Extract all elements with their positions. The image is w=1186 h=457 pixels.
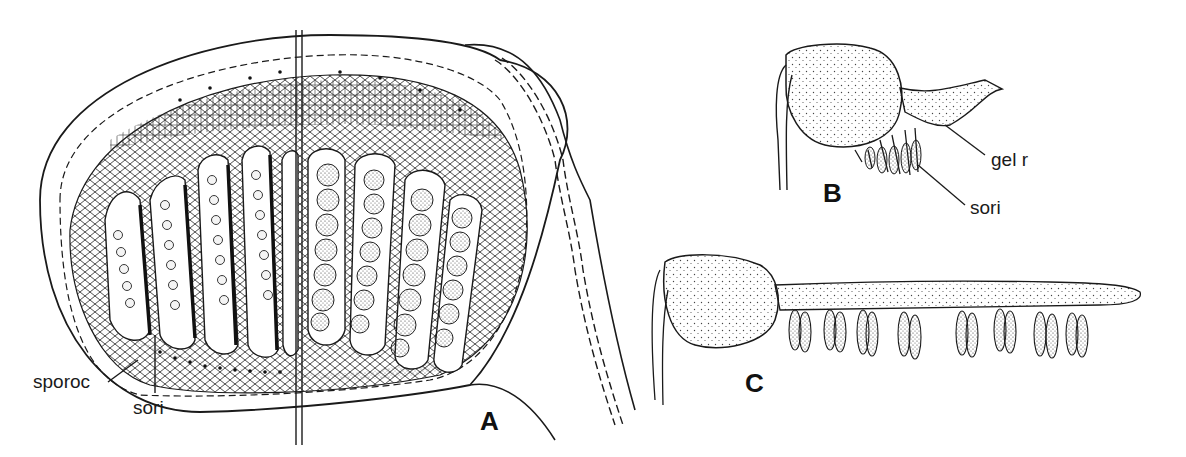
label-sporoc: sporoc [33,372,90,391]
label-sori-b: sori [970,198,1001,217]
panel-a-drawing [40,30,635,445]
panel-letter-a: A [480,408,499,434]
panel-letter-c: C [745,370,764,396]
label-gel-r: gel r [991,150,1028,169]
label-sori-a: sori [133,398,164,417]
panel-c-drawing [652,255,1140,405]
panel-letter-b: B [823,180,842,206]
gel-r-leader-line [945,125,985,155]
figure-canvas [0,0,1186,457]
panel-b-drawing [776,44,1002,205]
sori-leader-line-b [918,165,965,205]
